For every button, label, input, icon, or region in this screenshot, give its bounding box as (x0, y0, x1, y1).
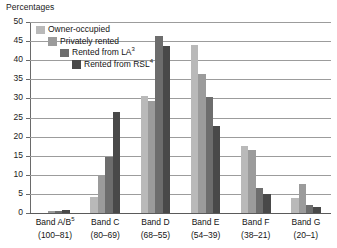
bar (263, 194, 270, 213)
band-name: Band F (242, 217, 269, 227)
band-name: Band E (192, 217, 220, 227)
band-range: (68–55) (130, 229, 180, 242)
legend-swatch-icon (60, 49, 69, 58)
chart-legend: Owner-occupiedPrivately rentedRented fro… (36, 24, 196, 70)
x-axis-label-band-f: Band F(38–21) (231, 216, 281, 241)
y-tick-label: 30 (14, 92, 23, 102)
bar (113, 112, 120, 213)
band-group-band-g (281, 22, 331, 213)
bar (191, 45, 198, 213)
x-axis-label-band-c: Band C(80–69) (80, 216, 130, 241)
legend-footnote-marker: 3 (132, 46, 135, 52)
bar (213, 126, 220, 213)
bar (306, 205, 313, 213)
band-footnote-marker: 5 (71, 216, 74, 222)
bar (163, 46, 170, 213)
bar (48, 211, 55, 213)
band-name: Band G (291, 217, 320, 227)
legend-label: Owner-occupied (48, 24, 110, 35)
legend-swatch-icon (36, 26, 45, 35)
bar (148, 101, 155, 213)
bar (256, 188, 263, 213)
band-name: Band C (91, 217, 119, 227)
bar (141, 96, 148, 213)
legend-item: Rented from LA3 (36, 47, 196, 59)
y-tick-label: 20 (14, 131, 23, 141)
y-tick-label: 15 (14, 150, 23, 160)
bar (62, 210, 69, 213)
bar (90, 197, 97, 213)
band-range: (38–21) (231, 229, 281, 242)
bar (291, 198, 298, 213)
legend-footnote-marker: 4 (150, 58, 153, 64)
bar (206, 97, 213, 213)
legend-label: Rented from RSL4 (84, 59, 153, 70)
legend-swatch-icon (72, 60, 81, 69)
y-tick-label: 10 (14, 169, 23, 179)
bar-chart: Percentages 50454035302520151050 Owner-o… (0, 0, 337, 248)
x-axis-label-band-e: Band E(54–39) (181, 216, 231, 241)
y-tick-label: 45 (14, 35, 23, 45)
band-range: (20–1) (281, 229, 331, 242)
band-range: (80–69) (80, 229, 130, 242)
band-name: Band D (141, 217, 169, 227)
y-tick-label: 0 (18, 207, 23, 217)
band-group-band-f (231, 22, 281, 213)
y-tick-label: 5 (18, 188, 23, 198)
legend-swatch-icon (48, 37, 57, 46)
band-range: (100–81) (30, 229, 80, 242)
y-tick-label: 50 (14, 16, 23, 26)
y-axis-ticks: 50454035302520151050 (0, 22, 30, 213)
bar (313, 207, 320, 213)
bar (198, 74, 205, 213)
x-axis-label-band-a-b: Band A/B5(100–81) (30, 216, 80, 241)
x-axis-label-band-d: Band D(68–55) (130, 216, 180, 241)
legend-item: Privately rented (36, 36, 196, 48)
bar (241, 146, 248, 213)
bar (55, 211, 62, 213)
legend-label: Rented from LA3 (72, 47, 135, 58)
x-axis-label-band-g: Band G(20–1) (281, 216, 331, 241)
band-range: (54–39) (181, 229, 231, 242)
legend-label: Privately rented (60, 36, 119, 47)
band-name: Band A/B5 (36, 217, 75, 227)
legend-item: Rented from RSL4 (36, 59, 196, 71)
y-tick-label: 35 (14, 73, 23, 83)
bar (299, 184, 306, 213)
x-axis-labels: Band A/B5(100–81)Band C(80–69)Band D(68–… (30, 216, 331, 248)
bar (248, 150, 255, 213)
bar (98, 176, 105, 213)
y-tick-label: 40 (14, 54, 23, 64)
bar (105, 157, 112, 213)
y-tick-label: 25 (14, 112, 23, 122)
gridline-0 (30, 213, 331, 214)
legend-item: Owner-occupied (36, 24, 196, 36)
y-axis-title: Percentages (6, 2, 54, 12)
